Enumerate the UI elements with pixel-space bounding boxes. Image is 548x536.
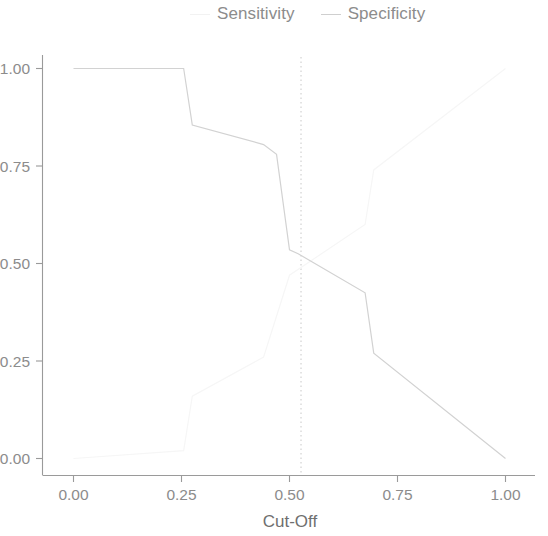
y-tick-label-4: 0.25 xyxy=(0,353,30,370)
x-axis-group: 0.00 0.25 0.50 0.75 1.00 Cut-Off xyxy=(43,476,536,532)
x-axis-title: Cut-Off xyxy=(263,512,318,531)
x-tick-label-5: 1.00 xyxy=(490,486,521,503)
x-tick-label-2: 0.25 xyxy=(166,486,196,503)
series-line-specificity xyxy=(74,69,506,459)
y-tick-label-2: 0.75 xyxy=(0,158,30,175)
y-tick-label-1: 1.00 xyxy=(0,60,30,77)
y-axis-group: 1.00 0.75 0.50 0.25 0.00 xyxy=(0,55,43,475)
y-tick-label-3: 0.50 xyxy=(0,255,30,272)
x-tick-label-4: 0.75 xyxy=(382,486,412,503)
roc-cutoff-chart: Sensitivity Specificity 1.00 0.75 0.50 0… xyxy=(0,0,548,536)
plot-area: 1.00 0.75 0.50 0.25 0.00 0.00 0.25 0.50 … xyxy=(0,0,548,536)
x-tick-label-3: 0.50 xyxy=(274,486,305,503)
series-line-sensitivity xyxy=(74,69,506,459)
x-tick-label-1: 0.00 xyxy=(58,486,89,503)
y-tick-label-5: 0.00 xyxy=(0,450,30,467)
